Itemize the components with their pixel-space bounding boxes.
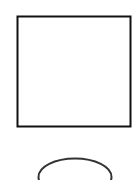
diagram-svg (0, 0, 134, 180)
ellipse-shape (39, 159, 112, 181)
square-shape (18, 17, 131, 127)
diagram-canvas (0, 0, 134, 180)
